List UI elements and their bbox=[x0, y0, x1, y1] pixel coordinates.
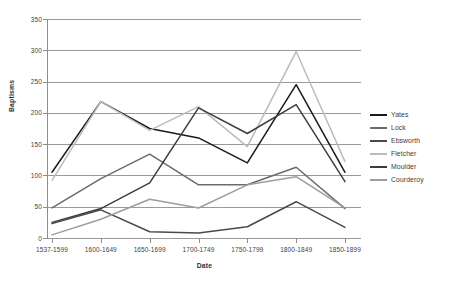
legend-color-swatch bbox=[370, 140, 387, 142]
legend-item-label: Courderoy bbox=[391, 176, 424, 184]
legend-color-swatch bbox=[370, 127, 387, 129]
legend-color-swatch bbox=[370, 166, 387, 168]
x-axis-title: Date bbox=[48, 262, 361, 269]
x-axis-tick bbox=[101, 238, 102, 243]
x-axis-tick bbox=[199, 238, 200, 243]
series-line bbox=[52, 85, 345, 173]
legend-item-label: Moulder bbox=[391, 163, 416, 171]
legend-item-label: Yates bbox=[391, 111, 408, 119]
x-axis-tick bbox=[52, 238, 53, 243]
x-axis-tick bbox=[247, 238, 248, 243]
y-axis-tick-label: 150 bbox=[2, 141, 42, 148]
x-axis-tick bbox=[345, 238, 346, 243]
legend-item-moulder[interactable]: Moulder bbox=[370, 160, 474, 173]
legend-color-swatch bbox=[370, 114, 387, 116]
y-axis-tick bbox=[43, 19, 48, 20]
x-axis-tick-label: 1850-1899 bbox=[310, 246, 380, 254]
y-axis-tick-label: 350 bbox=[2, 16, 42, 23]
y-axis-tick bbox=[43, 144, 48, 145]
legend-item-label: Ebsworth bbox=[391, 137, 420, 145]
legend-item-fletcher[interactable]: Fletcher bbox=[370, 147, 474, 160]
x-axis-tick bbox=[296, 238, 297, 243]
y-axis-tick bbox=[43, 238, 48, 239]
y-axis-tick bbox=[43, 113, 48, 114]
legend: YatesLockEbsworthFletcherMoulderCourdero… bbox=[370, 108, 474, 186]
legend-item-yates[interactable]: Yates bbox=[370, 108, 474, 121]
legend-item-lock[interactable]: Lock bbox=[370, 121, 474, 134]
x-axis-tick bbox=[150, 238, 151, 243]
line-chart: 050100150200250300350 1537-15991600-1649… bbox=[0, 0, 474, 285]
series-line bbox=[52, 52, 345, 181]
legend-item-ebsworth[interactable]: Ebsworth bbox=[370, 134, 474, 147]
y-axis-title: Baptisms bbox=[8, 80, 15, 112]
plot-area bbox=[48, 19, 361, 238]
legend-item-label: Lock bbox=[391, 124, 406, 132]
legend-item-label: Fletcher bbox=[391, 150, 416, 158]
legend-item-courderoy[interactable]: Courderoy bbox=[370, 173, 474, 186]
series-line bbox=[52, 202, 345, 233]
legend-color-swatch bbox=[370, 153, 387, 155]
y-axis-tick bbox=[43, 207, 48, 208]
y-axis-tick bbox=[43, 82, 48, 83]
y-axis-tick-label: 100 bbox=[2, 172, 42, 179]
y-axis-tick-label: 50 bbox=[2, 203, 42, 210]
y-axis-tick bbox=[43, 50, 48, 51]
y-axis-tick-label: 0 bbox=[2, 235, 42, 242]
y-axis-tick bbox=[43, 175, 48, 176]
gridline bbox=[48, 238, 361, 239]
legend-color-swatch bbox=[370, 179, 387, 181]
series-line bbox=[52, 154, 345, 208]
y-axis-tick-label: 300 bbox=[2, 47, 42, 54]
series-lines bbox=[48, 19, 361, 238]
